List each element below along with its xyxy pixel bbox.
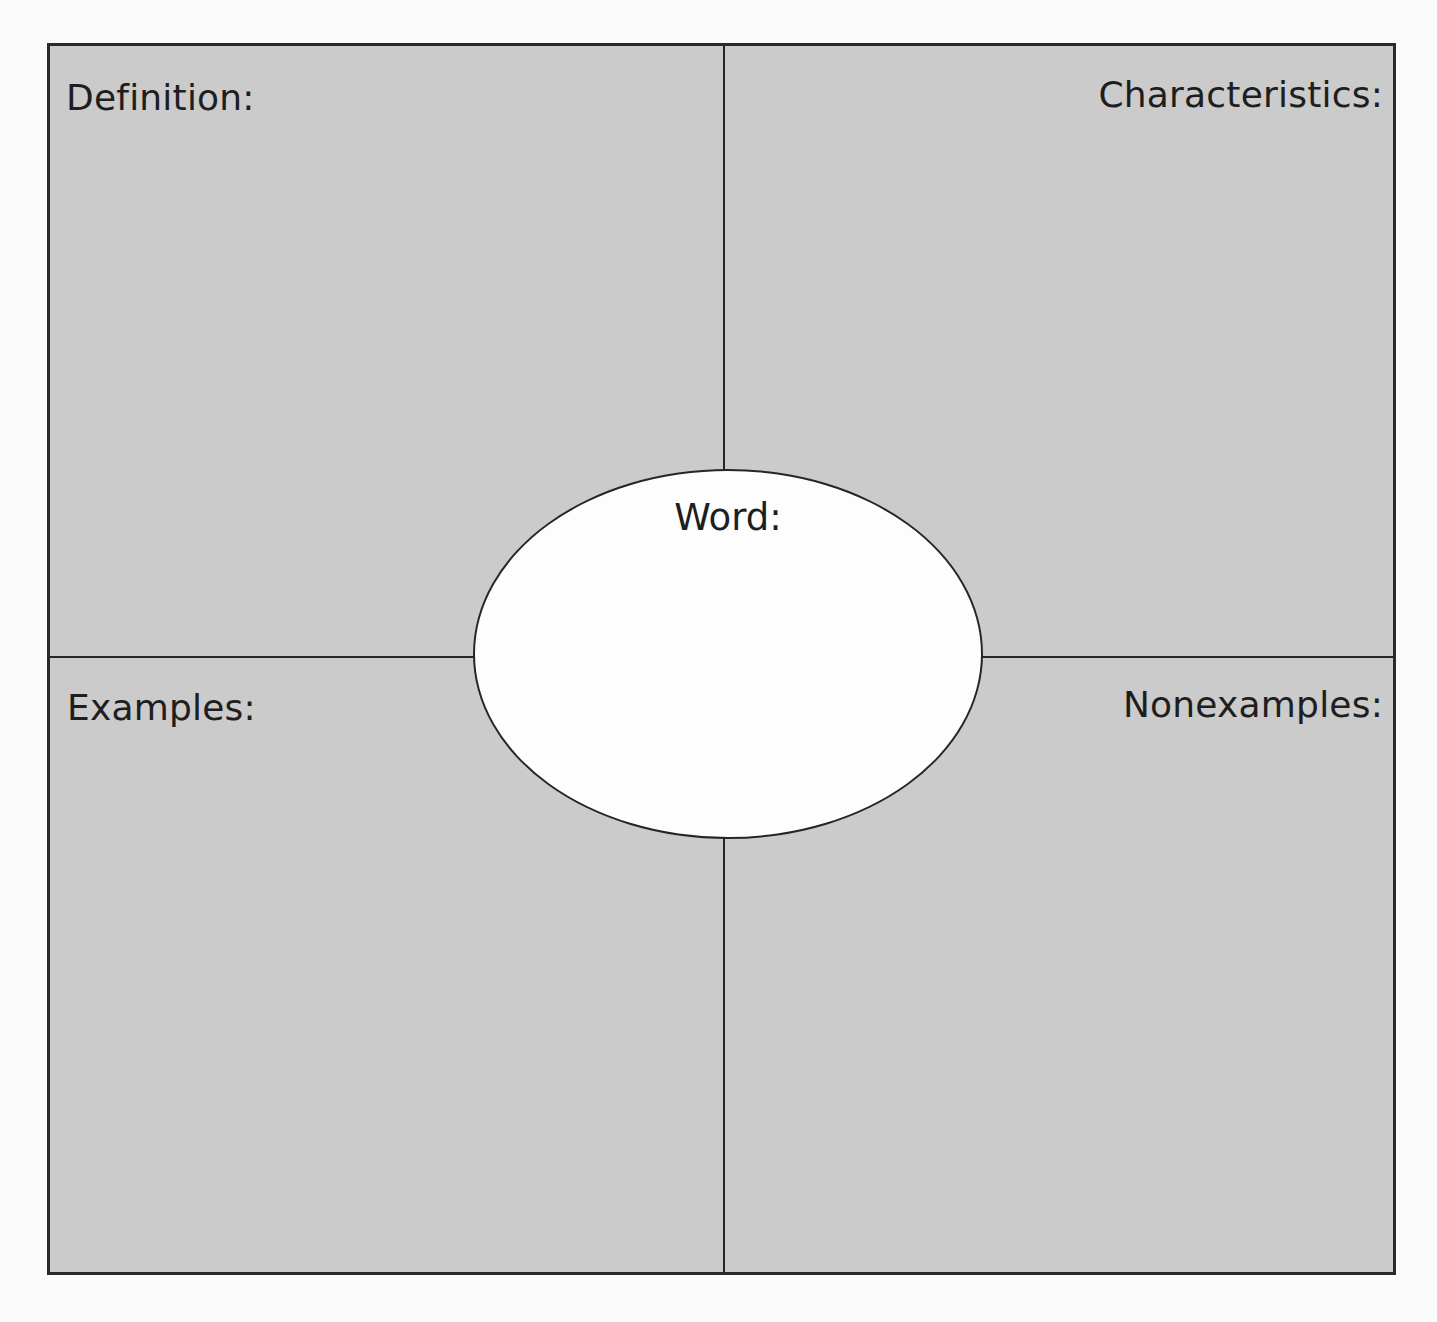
word-label: Word: — [475, 499, 981, 536]
definition-label: Definition: — [66, 80, 255, 116]
word-writing-area[interactable] — [535, 581, 921, 761]
definition-writing-area[interactable] — [60, 136, 660, 516]
frayer-model-organizer: Definition: Characteristics: Examples: N… — [47, 43, 1396, 1275]
nonexamples-label: Nonexamples: — [1123, 687, 1383, 723]
examples-label: Examples: — [67, 690, 256, 726]
characteristics-writing-area[interactable] — [740, 136, 1380, 516]
nonexamples-writing-area[interactable] — [740, 746, 1380, 1256]
word-oval: Word: — [473, 469, 983, 839]
examples-writing-area[interactable] — [60, 746, 660, 1256]
characteristics-label: Characteristics: — [1099, 77, 1384, 113]
